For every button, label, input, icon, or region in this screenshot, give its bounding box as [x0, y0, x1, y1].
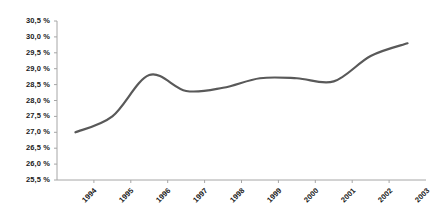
x-axis-tick-label: 2003 [368, 186, 408, 216]
y-axis-tick-label-text: 27,0 % [6, 128, 50, 136]
x-axis-tick-label: 2000 [257, 186, 297, 216]
y-axis-tick-label: 26,5 % [6, 144, 50, 152]
y-axis-tick-label: 29,5 % [6, 49, 50, 57]
y-axis-tick-label-text: 26,0 % [6, 160, 50, 168]
y-axis-tick-label-text: 29,5 % [6, 49, 50, 57]
y-axis-tick-label: 27,5 % [6, 112, 50, 120]
x-axis-tick-label: 2001 [294, 186, 334, 216]
y-axis-tick-label: 30,5 % [6, 17, 50, 25]
y-axis-tick-label: 29,0 % [6, 65, 50, 73]
chart-container: 30,5 %30,0 %29,5 %29,0 %28,5 %28,0 %27,5… [0, 0, 441, 220]
y-axis-tick-label-text: 29,0 % [6, 65, 50, 73]
x-axis-tick-label: 1998 [183, 186, 223, 216]
x-axis-tick-label: 1999 [220, 186, 260, 216]
y-axis-tick-label: 28,0 % [6, 97, 50, 105]
y-axis-tick-label-text: 30,5 % [6, 17, 50, 25]
x-axis-tick-label: 1996 [109, 186, 149, 216]
data-series-line [75, 43, 407, 132]
y-axis-tick-label-text: 27,5 % [6, 112, 50, 120]
x-axis-tick-label: 1994 [35, 186, 75, 216]
y-axis-tick-label: 25,5 % [6, 176, 50, 184]
y-axis-tick-label: 30,0 % [6, 33, 50, 41]
y-axis-tick-label-text: 28,5 % [6, 81, 50, 89]
y-axis-tick-label: 26,0 % [6, 160, 50, 168]
y-axis-tick-label: 27,0 % [6, 128, 50, 136]
x-axis-tick-label: 1997 [146, 186, 186, 216]
y-axis-tick-label-text: 30,0 % [6, 33, 50, 41]
x-axis-tick-label: 2002 [331, 186, 371, 216]
y-axis-tick-label-text: 26,5 % [6, 144, 50, 152]
y-axis-tick-label: 28,5 % [6, 81, 50, 89]
y-axis-tick-label-text: 25,5 % [6, 176, 50, 184]
x-axis-tick-label: 1995 [72, 186, 112, 216]
y-axis-tick-label-text: 28,0 % [6, 97, 50, 105]
